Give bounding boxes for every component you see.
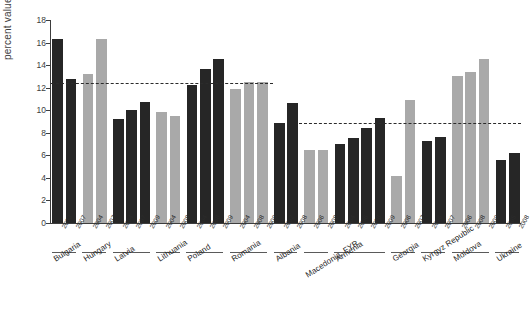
- bar-Moldova-2009: [479, 59, 490, 223]
- bar-KyrgyzRepublic-2007: [435, 137, 446, 223]
- bar-Moldova-2008: [465, 72, 476, 223]
- bar-Latvia-2007: [126, 110, 137, 223]
- group-rule: [304, 252, 328, 253]
- country-label-Romania: Romania: [230, 238, 262, 263]
- reference-line-eu: [51, 83, 273, 84]
- country-label-Hungary: Hungary: [82, 239, 113, 263]
- y-axis-title: percent values: [2, 0, 13, 60]
- bar-Romania-2009: [257, 82, 268, 223]
- bar-Romania-2008: [244, 82, 255, 223]
- bar-Moldova-2006: [452, 76, 463, 223]
- country-label-Albania: Albania: [274, 241, 302, 263]
- country-label-Lithuania: Lithuania: [156, 238, 189, 264]
- country-label-Georgia: Georgia: [391, 240, 420, 263]
- bar-Ukraine-2008: [509, 153, 520, 223]
- country-label-Ukraine: Ukraine: [495, 241, 524, 264]
- bar-KyrgyzRepublic-2006: [422, 141, 433, 223]
- y-tickmark: [46, 20, 50, 21]
- y-tickmark: [46, 110, 50, 111]
- bar-Armenia-2004: [335, 144, 346, 223]
- bar-Romania-2004: [230, 89, 241, 223]
- y-tick-14: 14: [37, 61, 46, 70]
- y-tickmark: [46, 155, 50, 156]
- bar-Hungary-2007: [96, 39, 107, 223]
- country-label-Bulgaria: Bulgaria: [52, 240, 82, 264]
- y-tickmark: [46, 133, 50, 134]
- country-label-Latvia: Latvia: [113, 244, 136, 264]
- bar-Bulgaria-2003: [52, 39, 63, 223]
- y-tickmark: [46, 43, 50, 44]
- bar-Poland-2008: [200, 69, 211, 224]
- bar-Ukraine-2005: [496, 160, 507, 223]
- bar-Albania-2008: [287, 103, 298, 223]
- bar-Albania-2002: [274, 123, 285, 223]
- y-axis-title-text: percent values: [2, 0, 13, 60]
- bar-Lithuania-2004: [156, 112, 167, 223]
- y-tickmark: [46, 88, 50, 89]
- bar-Lithuania-2008: [170, 116, 181, 223]
- y-tickmark: [46, 200, 50, 201]
- y-tick-18: 18: [37, 16, 46, 25]
- bar-Armenia-2009: [375, 118, 386, 223]
- bar-Poland-2004: [187, 85, 198, 223]
- bar-Bulgaria-2007: [66, 79, 77, 223]
- bar-Armenia-2006: [348, 138, 359, 223]
- plot-area: [51, 20, 521, 223]
- bar-Latvia-2009: [140, 102, 151, 223]
- y-tick-10: 10: [37, 106, 46, 115]
- reference-line-noneu: [299, 123, 521, 124]
- y-tickmark: [46, 65, 50, 66]
- y-tick-12: 12: [37, 83, 46, 92]
- bar-MacedoniaFYR-2008: [318, 150, 329, 223]
- bar-Hungary-2004: [83, 74, 94, 223]
- y-tickmark: [46, 178, 50, 179]
- bar-Latvia-2004: [113, 119, 124, 223]
- y-axis-tick-labels: 024681012141618: [22, 0, 46, 316]
- bar-Georgia-2007: [405, 100, 416, 223]
- bar-Armenia-2008: [361, 128, 372, 223]
- y-tick-16: 16: [37, 38, 46, 47]
- bar-MacedoniaFYR-2006: [304, 150, 315, 223]
